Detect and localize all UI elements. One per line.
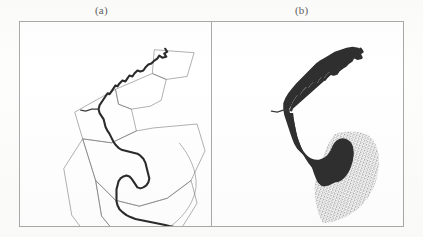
zone-polygon <box>152 50 194 80</box>
zone-polygon <box>83 124 205 206</box>
zone-polygon <box>116 73 167 109</box>
panel-a-label: (a) <box>95 4 108 16</box>
zone-boundary-polygons <box>64 50 205 226</box>
river-tributary-west <box>81 109 99 111</box>
estuary-outline-curve <box>141 143 196 226</box>
panel-b-map <box>212 22 403 226</box>
panel-b-frame <box>211 21 404 227</box>
panel-b-label: (b) <box>295 4 308 16</box>
panel-a-map <box>20 22 212 226</box>
zone-polygon <box>96 180 197 226</box>
zone-polygon <box>64 139 120 226</box>
panel-a-frame <box>19 21 212 227</box>
figure-container: (a) (b) <box>0 0 423 237</box>
